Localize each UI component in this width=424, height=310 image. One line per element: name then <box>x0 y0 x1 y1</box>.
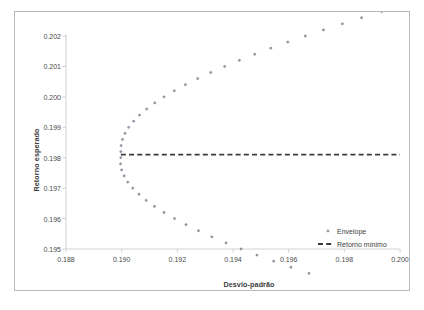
y-axis-title: Retorno esperado <box>32 128 41 191</box>
y-tick-label: 0.200 <box>33 93 61 100</box>
y-tick-label: 0.201 <box>33 63 61 70</box>
x-tick-label: 0.192 <box>169 256 187 263</box>
axis-lines <box>66 34 400 249</box>
x-tick-label: 0.200 <box>391 256 409 263</box>
x-tick-label: 0.198 <box>336 256 354 263</box>
y-tick-label: 0.195 <box>33 246 61 253</box>
envelope-points <box>119 12 382 274</box>
legend-item-retorno-minimo: Retorno mínimo <box>337 241 387 248</box>
y-tick-label: 0.202 <box>33 33 61 40</box>
x-tick-label: 0.196 <box>280 256 298 263</box>
legend-item-envelope: Envelope <box>337 228 366 235</box>
x-tick-label: 0.194 <box>224 256 242 263</box>
x-axis-title: Desvio-padrão <box>223 280 274 289</box>
x-tick-label: 0.188 <box>57 256 75 263</box>
y-tick-label: 0.196 <box>33 215 61 222</box>
chart-figure: 0.1950.1960.1970.1980.1990.2000.2010.202… <box>0 0 424 310</box>
x-tick-label: 0.190 <box>113 256 131 263</box>
scatter-plot-canvas <box>15 12 409 290</box>
legend-markers <box>318 230 334 244</box>
chart-frame: 0.1950.1960.1970.1980.1990.2000.2010.202… <box>14 11 410 291</box>
tick-marks <box>63 36 401 253</box>
